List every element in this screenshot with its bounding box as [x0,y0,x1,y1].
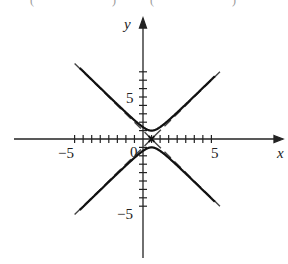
origin-label: 0 [130,144,138,160]
y-axis-arrow-icon [140,18,147,28]
paren-right: ) [232,0,236,7]
paren-left: ( [30,0,34,7]
upper-branch-curve [80,68,215,131]
lower-branch-curve [80,147,215,210]
hyperbola-plot: ( ) ( ) y x 0 −5 5 5 −5 [0,0,288,264]
x-axis-label: x [276,145,284,161]
y-tick-label-5: 5 [126,90,134,106]
paren-mid2: ( [150,0,154,7]
x-axis-arrow-icon [274,136,283,143]
y-axis-label: y [122,16,131,32]
x-tick-label-neg5: −5 [58,145,74,161]
y-tick-label-neg5: −5 [117,206,133,222]
axes [14,18,283,258]
x-tick-label-5: 5 [211,145,219,161]
header-fragment: ( ) ( ) [30,0,236,7]
paren-mid1: ) [112,0,116,7]
